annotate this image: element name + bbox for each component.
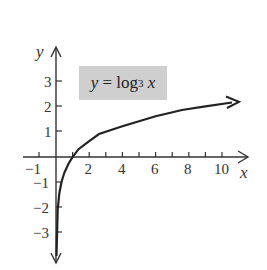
x-tick-label: 4 — [118, 161, 126, 177]
x-tick-label: 6 — [151, 161, 159, 177]
x-ticks — [39, 152, 222, 157]
y-axis — [51, 47, 61, 263]
y-tick-label: 1 — [44, 124, 52, 140]
y-tick-label: 2 — [44, 99, 52, 115]
y-tick-label: −1 — [33, 175, 49, 191]
equation-log: = log — [98, 73, 138, 93]
log-curve — [57, 103, 233, 257]
equation-y: y — [91, 73, 99, 93]
chart-canvas: −1 2 4 6 8 10 x 3 2 1 −1 −2 −3 y — [0, 0, 267, 270]
y-tick-label: −2 — [33, 200, 49, 216]
equation-x: x — [144, 73, 156, 93]
x-tick-label: 2 — [85, 161, 93, 177]
y-tick-label: −3 — [33, 225, 49, 241]
y-tick-label: 3 — [44, 74, 52, 90]
x-tick-label: 8 — [184, 161, 192, 177]
y-axis-label: y — [34, 42, 44, 61]
equation-label: y = log3 x — [79, 66, 167, 100]
x-axis-label: x — [239, 163, 248, 182]
x-tick-label: 10 — [214, 161, 229, 177]
